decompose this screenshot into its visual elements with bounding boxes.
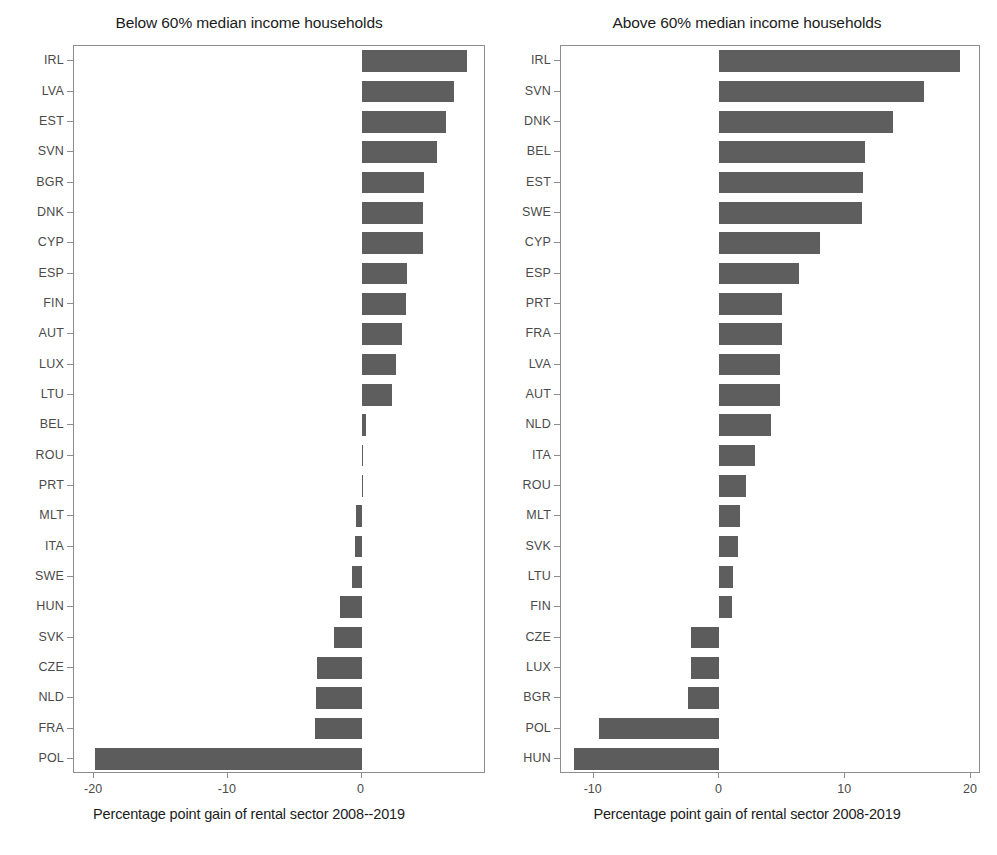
- plot-area: [560, 45, 980, 773]
- bar: [362, 384, 393, 406]
- x-axis-tick: [970, 773, 971, 778]
- y-axis-label: CZE: [38, 660, 64, 674]
- y-axis-label: ROU: [36, 448, 64, 462]
- bar: [362, 323, 402, 345]
- y-axis-tick: [67, 182, 73, 183]
- y-axis-tick: [554, 333, 560, 334]
- y-axis-label: LTU: [41, 387, 64, 401]
- y-axis-label: LVA: [42, 84, 64, 98]
- y-axis-tick: [554, 455, 560, 456]
- x-axis-tick-label: -20: [84, 782, 102, 796]
- bar: [719, 50, 959, 72]
- panel-above-median: Above 60% median income households IRLSV…: [498, 0, 996, 855]
- y-axis-tick: [554, 546, 560, 547]
- y-axis-label: MLT: [526, 508, 551, 522]
- y-axis-tick: [554, 273, 560, 274]
- y-axis-tick: [554, 728, 560, 729]
- x-axis-tick-label: -10: [584, 782, 602, 796]
- y-axis-label: AUT: [525, 387, 551, 401]
- y-axis-label: ROU: [523, 478, 551, 492]
- y-axis-tick: [67, 546, 73, 547]
- bar: [599, 718, 720, 740]
- y-axis-tick: [67, 455, 73, 456]
- x-axis-tick-label: 0: [357, 782, 364, 796]
- y-axis-tick: [67, 424, 73, 425]
- bar: [691, 627, 720, 649]
- y-axis-tick: [67, 151, 73, 152]
- bar: [362, 475, 363, 497]
- y-axis-tick: [554, 485, 560, 486]
- y-axis-tick: [67, 333, 73, 334]
- y-axis-tick: [67, 637, 73, 638]
- bar: [719, 354, 779, 376]
- x-axis-tick: [361, 773, 362, 778]
- y-axis-tick: [554, 758, 560, 759]
- y-axis-tick: [67, 242, 73, 243]
- bar: [362, 445, 363, 467]
- y-axis-label: ITA: [532, 448, 551, 462]
- y-axis-tick: [554, 515, 560, 516]
- y-axis-label: FRA: [38, 721, 64, 735]
- y-axis-tick: [554, 60, 560, 61]
- y-axis-tick: [67, 394, 73, 395]
- y-axis-label: IRL: [531, 53, 551, 67]
- y-axis-tick: [67, 60, 73, 61]
- y-axis-label: SVK: [38, 630, 64, 644]
- bar: [315, 718, 362, 740]
- y-axis-tick: [67, 121, 73, 122]
- y-axis-label: ESP: [38, 266, 64, 280]
- bar: [719, 384, 779, 406]
- y-axis-tick: [554, 606, 560, 607]
- y-axis-label: LTU: [528, 569, 551, 583]
- panel-title: Above 60% median income households: [498, 14, 996, 32]
- figure-rental-sector-gain: Below 60% median income households IRLLV…: [0, 0, 997, 855]
- y-axis-tick: [554, 394, 560, 395]
- bar: [719, 293, 782, 315]
- y-axis-label: NLD: [38, 690, 64, 704]
- bar: [719, 566, 733, 588]
- y-axis-label: BGR: [36, 175, 64, 189]
- y-axis-label: LUX: [39, 357, 64, 371]
- y-axis-tick: [67, 728, 73, 729]
- y-axis-label: POL: [525, 721, 551, 735]
- bar: [340, 596, 361, 618]
- y-axis-label: PRT: [526, 296, 551, 310]
- y-axis-tick: [554, 151, 560, 152]
- y-axis-label: PRT: [39, 478, 64, 492]
- y-axis-tick: [554, 667, 560, 668]
- y-axis-label: SWE: [522, 205, 551, 219]
- bar: [316, 687, 361, 709]
- x-axis-tick: [844, 773, 845, 778]
- y-axis-label: FIN: [530, 599, 551, 613]
- y-axis-label: HUN: [36, 599, 64, 613]
- y-axis-tick: [554, 697, 560, 698]
- panel-title: Below 60% median income households: [0, 14, 498, 32]
- y-axis-tick: [554, 242, 560, 243]
- bar: [719, 81, 924, 103]
- bar: [356, 505, 361, 527]
- bar: [719, 263, 798, 285]
- y-axis-label: SVN: [525, 84, 551, 98]
- y-axis-tick: [67, 212, 73, 213]
- y-axis-label: SVK: [525, 539, 551, 553]
- x-axis-tick-label: 0: [715, 782, 722, 796]
- y-axis-label: LUX: [526, 660, 551, 674]
- bar: [719, 323, 782, 345]
- y-axis-label: EST: [526, 175, 551, 189]
- y-axis-tick: [554, 364, 560, 365]
- y-axis-label: FRA: [525, 326, 551, 340]
- bar: [355, 536, 362, 558]
- bar: [688, 687, 719, 709]
- bar: [691, 657, 720, 679]
- y-axis-label: CZE: [525, 630, 551, 644]
- y-axis-label: SVN: [38, 144, 64, 158]
- bar: [719, 475, 745, 497]
- y-axis-label: EST: [39, 114, 64, 128]
- y-axis-label: ESP: [525, 266, 551, 280]
- y-axis-tick: [67, 667, 73, 668]
- bar: [362, 141, 437, 163]
- y-axis-tick: [554, 91, 560, 92]
- y-axis-label: CYP: [525, 235, 551, 249]
- y-axis-tick: [67, 515, 73, 516]
- bar: [719, 445, 754, 467]
